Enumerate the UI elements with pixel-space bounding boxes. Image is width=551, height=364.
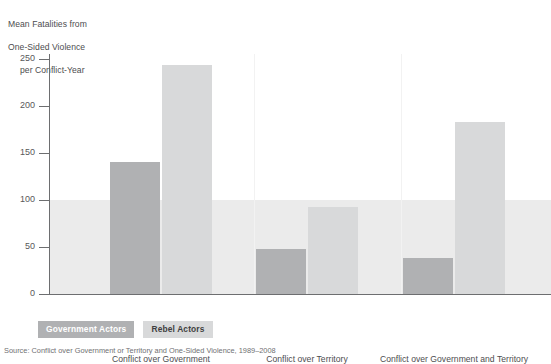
x-axis-label-group-1: Conflict over Government <box>112 354 210 364</box>
legend-item-rebel-actors[interactable]: Rebel Actors <box>143 321 212 338</box>
y-axis-tick-label-100: 100 <box>20 194 35 205</box>
chart-legend: Government Actors Rebel Actors <box>38 321 213 338</box>
y-axis-tick-label-50: 50 <box>25 241 35 252</box>
x-axis-label-group-2: Conflict over Territory <box>266 354 348 364</box>
y-axis-tick-label-150: 150 <box>20 147 35 158</box>
plot-interior <box>49 54 551 295</box>
vertical-separator-1 <box>254 54 255 294</box>
y-axis-tick-250: 250 <box>39 59 50 60</box>
x-axis-line <box>49 294 551 295</box>
chart-caption: Source: Conflict over Government or Terr… <box>4 346 547 355</box>
y-axis-title-line-1: Mean Fatalities from <box>6 19 166 31</box>
bar-government-actors-group-1[interactable] <box>110 162 160 294</box>
bar-rebel-actors-group-2[interactable] <box>308 207 358 294</box>
bar-government-actors-group-2[interactable] <box>256 249 306 294</box>
y-axis-tick-200: 200 <box>39 106 50 107</box>
vertical-separator-2 <box>401 54 402 294</box>
y-axis-title-line-2: One-Sided Violence <box>6 42 166 54</box>
bar-rebel-actors-group-3[interactable] <box>455 122 505 294</box>
y-axis-tick-label-0: 0 <box>30 288 35 299</box>
bar-chart-plot-area: 050100150200250 Conflict over Government… <box>35 54 551 295</box>
y-axis-tick-100: 100 <box>39 200 50 201</box>
y-axis-tick-50: 50 <box>39 247 50 248</box>
bar-rebel-actors-group-1[interactable] <box>162 65 212 294</box>
y-axis-line <box>49 54 50 295</box>
legend-item-government-actors[interactable]: Government Actors <box>38 321 134 338</box>
y-axis-tick-0: 0 <box>39 294 50 295</box>
y-axis-tick-label-200: 200 <box>20 100 35 111</box>
y-axis-tick-150: 150 <box>39 153 50 154</box>
y-axis-tick-label-250: 250 <box>20 53 35 64</box>
bar-government-actors-group-3[interactable] <box>403 258 453 294</box>
x-axis-label-group-3: Conflict over Government and Territory <box>380 354 528 364</box>
